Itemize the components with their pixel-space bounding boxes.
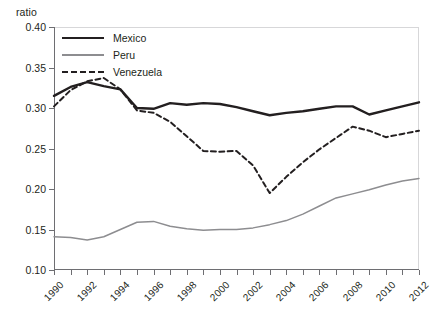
x-axis-tick bbox=[353, 270, 354, 275]
x-axis-tick bbox=[220, 270, 221, 275]
x-axis-tick-label: 1990 bbox=[42, 279, 66, 303]
x-axis-tick bbox=[137, 270, 138, 275]
y-axis-tick-label: 0.25 bbox=[26, 143, 46, 155]
x-axis-tick bbox=[104, 270, 105, 275]
chart-container: ratio 0.400.350.300.250.200.150.10 19901… bbox=[0, 0, 445, 322]
legend-swatch-peru bbox=[62, 49, 104, 61]
x-axis-tick bbox=[54, 270, 55, 275]
x-axis-tick bbox=[369, 270, 370, 275]
legend-swatch-venezuela bbox=[62, 66, 104, 78]
legend-item-venezuela: Venezuela bbox=[62, 65, 162, 79]
y-axis-unit-label: ratio bbox=[16, 6, 37, 18]
series-line-mexico bbox=[54, 82, 419, 115]
x-axis-tick bbox=[319, 270, 320, 275]
x-axis-tick-label: 2004 bbox=[274, 279, 298, 303]
x-axis-tick-label: 2012 bbox=[407, 279, 431, 303]
x-axis-tick bbox=[187, 270, 188, 275]
x-axis-tick bbox=[386, 270, 387, 275]
x-axis-tick bbox=[120, 270, 121, 275]
x-axis-tick bbox=[170, 270, 171, 275]
x-axis-tick bbox=[203, 270, 204, 275]
y-axis-tick-label: 0.40 bbox=[26, 21, 46, 33]
x-axis-tick bbox=[270, 270, 271, 275]
x-axis-tick bbox=[419, 270, 420, 275]
x-axis-tick bbox=[402, 270, 403, 275]
x-axis-tick-label: 1994 bbox=[108, 279, 132, 303]
x-axis-tick-label: 2006 bbox=[307, 279, 331, 303]
x-axis-tick-label: 2000 bbox=[208, 279, 232, 303]
legend-label-mexico: Mexico bbox=[113, 32, 146, 44]
x-axis-tick bbox=[87, 270, 88, 275]
x-axis-tick bbox=[237, 270, 238, 275]
x-axis-tick bbox=[71, 270, 72, 275]
series-line-peru bbox=[54, 178, 419, 240]
x-axis-tick bbox=[336, 270, 337, 275]
series-line-venezuela bbox=[54, 78, 419, 193]
y-axis-tick-label: 0.35 bbox=[26, 62, 46, 74]
legend-label-peru: Peru bbox=[113, 49, 135, 61]
chart-legend: Mexico Peru Venezuela bbox=[62, 31, 162, 79]
x-axis-tick bbox=[286, 270, 287, 275]
x-axis-tick bbox=[154, 270, 155, 275]
x-axis-tick-label: 1998 bbox=[174, 279, 198, 303]
x-axis-tick-label: 2002 bbox=[241, 279, 265, 303]
y-axis-tick-label: 0.10 bbox=[26, 264, 46, 276]
y-axis-tick-label: 0.20 bbox=[26, 183, 46, 195]
x-axis-tick-label: 1992 bbox=[75, 279, 99, 303]
x-axis-tick-label: 1996 bbox=[141, 279, 165, 303]
x-axis-tick bbox=[303, 270, 304, 275]
y-axis-tick-label: 0.30 bbox=[26, 102, 46, 114]
legend-item-mexico: Mexico bbox=[62, 31, 162, 45]
x-axis-tick bbox=[253, 270, 254, 275]
legend-swatch-mexico bbox=[62, 32, 104, 44]
x-axis-tick-label: 2010 bbox=[374, 279, 398, 303]
y-axis-tick-label: 0.15 bbox=[26, 224, 46, 236]
x-axis-tick-label: 2008 bbox=[340, 279, 364, 303]
legend-label-venezuela: Venezuela bbox=[113, 66, 162, 78]
legend-item-peru: Peru bbox=[62, 48, 162, 62]
